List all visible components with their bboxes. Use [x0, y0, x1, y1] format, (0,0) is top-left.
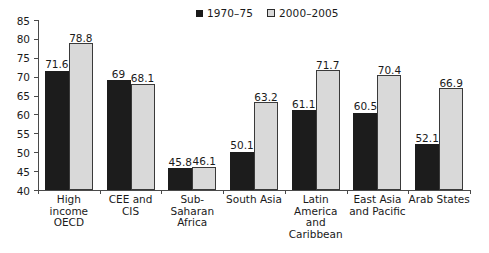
bar-pair: 50.163.2	[223, 20, 285, 190]
bar-value-label: 70.4	[378, 65, 401, 76]
bar-series-b[interactable]: 78.8	[69, 43, 93, 190]
y-axis-tick-label: 40	[17, 185, 30, 196]
category-label: High income OECD	[38, 194, 100, 229]
x-axis-line	[38, 190, 470, 191]
bar-value-label: 66.9	[439, 78, 462, 89]
y-axis-tick-label: 85	[17, 15, 30, 26]
bar-series-a[interactable]: 52.1	[415, 144, 439, 190]
y-axis-tick-label: 55	[17, 129, 30, 140]
y-axis-tick-label: 50	[17, 147, 30, 158]
bar-series-b[interactable]: 70.4	[377, 75, 401, 190]
bar-pair: 52.166.9	[408, 20, 470, 190]
bar-group: 71.678.8	[38, 20, 100, 190]
bar-value-label: 45.8	[169, 157, 192, 168]
category-label: South Asia	[223, 194, 285, 206]
bar-series-b[interactable]: 63.2	[254, 102, 278, 190]
x-axis-tick	[470, 190, 471, 194]
bar-pair: 71.678.8	[38, 20, 100, 190]
bar-series-a[interactable]: 61.1	[292, 110, 316, 190]
bar-group: 52.166.9	[408, 20, 470, 190]
category-label: CEE and CIS	[100, 194, 162, 217]
bar-value-label: 63.2	[254, 92, 277, 103]
bar-value-label: 78.8	[69, 33, 92, 44]
bar-series-a[interactable]: 50.1	[230, 152, 254, 190]
bar-value-label: 60.5	[354, 101, 377, 112]
bar-series-a[interactable]: 71.6	[45, 71, 69, 190]
y-axis-tick-label: 70	[17, 72, 30, 83]
bar-value-label: 71.6	[45, 59, 68, 70]
plot-area: 40455055606570758085 71.678.86968.145.84…	[38, 20, 470, 190]
category-label: Latin America and Caribbean	[285, 194, 347, 240]
bar-series-a[interactable]: 69	[107, 80, 131, 190]
category-label: Sub- Saharan Africa	[161, 194, 223, 229]
y-axis-tick-label: 45	[17, 166, 30, 177]
bar-pair: 60.570.4	[347, 20, 409, 190]
bar-value-label: 68.1	[131, 73, 154, 84]
category-label: Arab States	[408, 194, 470, 206]
bar-value-label: 71.7	[316, 60, 339, 71]
y-axis-tick-label: 65	[17, 91, 30, 102]
bar-series-b[interactable]: 68.1	[131, 84, 155, 190]
bar-series-a[interactable]: 45.8	[168, 168, 192, 190]
bar-series-b[interactable]: 71.7	[316, 70, 340, 190]
bar-value-label: 46.1	[193, 156, 216, 167]
legend-swatch-icon-series-a	[196, 10, 203, 17]
legend-label-series-b: 2000–2005	[279, 8, 339, 19]
legend-entry-1970-75: 1970–75	[196, 8, 253, 19]
bar-value-label: 52.1	[415, 133, 438, 144]
y-axis-tick-label: 60	[17, 110, 30, 121]
bar-pair: 61.171.7	[285, 20, 347, 190]
bar-group: 61.171.7	[285, 20, 347, 190]
y-axis-tick-label: 75	[17, 53, 30, 64]
bar-group: 6968.1	[100, 20, 162, 190]
y-axis-tick-label: 80	[17, 34, 30, 45]
bar-series-a[interactable]: 60.5	[353, 113, 377, 190]
chart-legend: 1970–75 2000–2005	[196, 8, 339, 19]
bar-pair: 45.846.1	[161, 20, 223, 190]
legend-swatch-icon-series-b	[267, 9, 275, 17]
bar-group: 45.846.1	[161, 20, 223, 190]
bar-value-label: 69	[112, 69, 125, 80]
bar-pair: 6968.1	[100, 20, 162, 190]
legend-entry-2000-2005: 2000–2005	[267, 8, 339, 19]
category-label: East Asia and Pacific	[347, 194, 409, 217]
legend-label-series-a: 1970–75	[207, 8, 253, 19]
bar-series-b[interactable]: 66.9	[439, 88, 463, 190]
bar-group: 60.570.4	[347, 20, 409, 190]
bar-group: 50.163.2	[223, 20, 285, 190]
bar-value-label: 50.1	[230, 140, 253, 151]
bar-value-label: 61.1	[292, 99, 315, 110]
bar-chart: 1970–75 2000–2005 40455055606570758085 7…	[0, 0, 489, 253]
bar-series-b[interactable]: 46.1	[192, 167, 216, 190]
